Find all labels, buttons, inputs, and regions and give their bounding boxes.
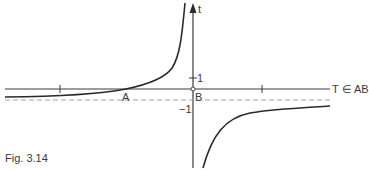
tick-label-neg1: −1 (179, 104, 192, 115)
tick-label-1: 1 (197, 73, 203, 84)
curve-right-branch (203, 106, 330, 168)
x-axis-label: T ∈ AB (332, 84, 369, 95)
y-axis-arrow-icon (190, 3, 197, 13)
point-a-label: A (122, 92, 129, 103)
figure-caption: Fig. 3.14 (5, 153, 48, 164)
point-b-label: B (195, 92, 202, 103)
curve-left-branch (5, 3, 185, 97)
y-axis-label: t (198, 4, 201, 15)
